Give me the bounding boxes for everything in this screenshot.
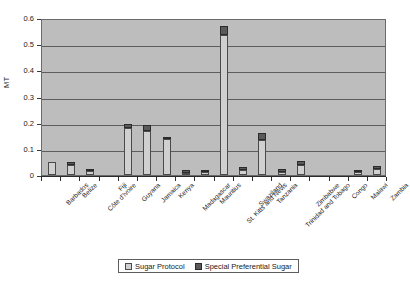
bar-segment-special-preferential-sugar bbox=[297, 161, 305, 165]
x-axis-tick-label: Guyana bbox=[141, 182, 162, 203]
bar-segment-special-preferential-sugar bbox=[86, 169, 94, 172]
x-axis-tick-mark bbox=[290, 177, 291, 181]
x-axis-tick-mark bbox=[348, 177, 349, 181]
bar-stack bbox=[143, 20, 151, 175]
bar-stack bbox=[86, 20, 94, 175]
legend-label-special-preferential-sugar: Special Preferential Sugar bbox=[205, 262, 292, 271]
x-axis-tick-label: Malawi bbox=[370, 182, 389, 201]
bar-segment-sugar-protocol bbox=[67, 165, 75, 175]
bar-stack bbox=[220, 20, 228, 175]
bar-stack bbox=[124, 20, 132, 175]
x-axis-tick-mark bbox=[118, 177, 119, 181]
bar-stack bbox=[278, 20, 286, 175]
bar-segment-special-preferential-sugar bbox=[278, 169, 286, 172]
x-axis-tick-mark bbox=[252, 177, 253, 181]
bar-stack bbox=[182, 20, 190, 175]
x-axis-tick-mark bbox=[214, 177, 215, 181]
bar-segment-sugar-protocol bbox=[86, 171, 94, 175]
legend-item-special-preferential-sugar: Special Preferential Sugar bbox=[195, 262, 292, 271]
x-axis-tick-mark bbox=[137, 177, 138, 181]
bar-segment-sugar-protocol bbox=[297, 165, 305, 175]
chart-legend: Sugar Protocol Special Preferential Suga… bbox=[118, 259, 299, 273]
bar-segment-sugar-protocol bbox=[182, 173, 190, 175]
x-axis-tick-mark bbox=[329, 177, 330, 181]
bar-stack bbox=[258, 20, 266, 175]
bar-segment-sugar-protocol bbox=[373, 169, 381, 175]
y-axis-tick-label: 0.2 bbox=[0, 120, 34, 128]
x-axis-tick-mark bbox=[386, 177, 387, 181]
bar-segment-special-preferential-sugar bbox=[67, 162, 75, 165]
x-axis-tick-mark bbox=[309, 177, 310, 181]
bar-stack bbox=[239, 20, 247, 175]
bar-segment-sugar-protocol bbox=[258, 140, 266, 175]
bar-segment-sugar-protocol bbox=[354, 172, 362, 175]
x-axis-tick-mark bbox=[41, 177, 42, 181]
bar-stack bbox=[354, 20, 362, 175]
y-axis-tick-label: 0.1 bbox=[0, 146, 34, 154]
x-axis-tick-label: Congo bbox=[350, 182, 368, 200]
bar-segment-special-preferential-sugar bbox=[182, 170, 190, 173]
bar-segment-sugar-protocol bbox=[220, 35, 228, 175]
x-axis-tick-mark bbox=[79, 177, 80, 181]
y-axis-tick-label: 0.3 bbox=[0, 94, 34, 102]
bar-segment-special-preferential-sugar bbox=[239, 167, 247, 170]
bar-stack bbox=[67, 20, 75, 175]
bar-segment-special-preferential-sugar bbox=[124, 124, 132, 129]
bar-segment-special-preferential-sugar bbox=[373, 166, 381, 169]
x-axis-tick-label: Zambia bbox=[390, 182, 410, 202]
bar-segment-sugar-protocol bbox=[278, 172, 286, 175]
x-axis-tick-mark bbox=[367, 177, 368, 181]
bar-segment-sugar-protocol bbox=[48, 162, 56, 175]
x-axis-tick-mark bbox=[99, 177, 100, 181]
bar-segment-sugar-protocol bbox=[239, 170, 247, 175]
bar-stack bbox=[163, 20, 171, 175]
bar-stack bbox=[373, 20, 381, 175]
bar-segment-special-preferential-sugar bbox=[220, 26, 228, 35]
bar-stack bbox=[48, 20, 56, 175]
x-axis-tick-mark bbox=[194, 177, 195, 181]
bar-group bbox=[42, 20, 385, 175]
bar-segment-special-preferential-sugar bbox=[354, 170, 362, 173]
bar-segment-special-preferential-sugar bbox=[201, 170, 209, 173]
y-axis-tick-label: 0.6 bbox=[0, 15, 34, 23]
bar-segment-special-preferential-sugar bbox=[163, 137, 171, 140]
legend-swatch-icon-special-preferential-sugar bbox=[195, 263, 202, 270]
y-axis-title: MT bbox=[2, 77, 11, 88]
legend-item-sugar-protocol: Sugar Protocol bbox=[125, 262, 185, 271]
bar-segment-sugar-protocol bbox=[163, 139, 171, 175]
bar-segment-sugar-protocol bbox=[201, 172, 209, 175]
y-axis-tick-label: 0.5 bbox=[0, 41, 34, 49]
bar-segment-special-preferential-sugar bbox=[258, 133, 266, 140]
y-axis-tick-label: 0.4 bbox=[0, 67, 34, 75]
bar-segment-sugar-protocol bbox=[124, 128, 132, 175]
y-axis-tick-label: 0 bbox=[0, 172, 34, 180]
legend-swatch-icon-sugar-protocol bbox=[125, 263, 132, 270]
bar-segment-special-preferential-sugar bbox=[143, 125, 151, 130]
x-axis-tick-mark bbox=[271, 177, 272, 181]
bar-stack bbox=[201, 20, 209, 175]
x-axis-tick-mark bbox=[233, 177, 234, 181]
bar-segment-sugar-protocol bbox=[143, 131, 151, 175]
plot-area bbox=[41, 19, 386, 176]
legend-label-sugar-protocol: Sugar Protocol bbox=[135, 262, 185, 271]
bar-stack bbox=[297, 20, 305, 175]
x-axis-tick-mark bbox=[60, 177, 61, 181]
